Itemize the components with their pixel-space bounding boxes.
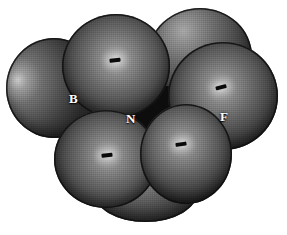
bond-tick-bottom-left	[101, 153, 112, 158]
bond-tick-bottom-right	[176, 142, 187, 147]
atom-label-boron: B	[69, 92, 78, 105]
bond-tick-right	[215, 84, 227, 90]
fluorine-top-sphere	[62, 14, 170, 118]
atom-label-nitrogen: N	[126, 112, 136, 125]
atom-label-fluorine: F	[220, 110, 228, 123]
hydrogen-bottom-right-sphere	[140, 104, 232, 204]
molecular-model-figure: B N F	[0, 0, 287, 235]
bond-tick-top	[109, 57, 120, 62]
